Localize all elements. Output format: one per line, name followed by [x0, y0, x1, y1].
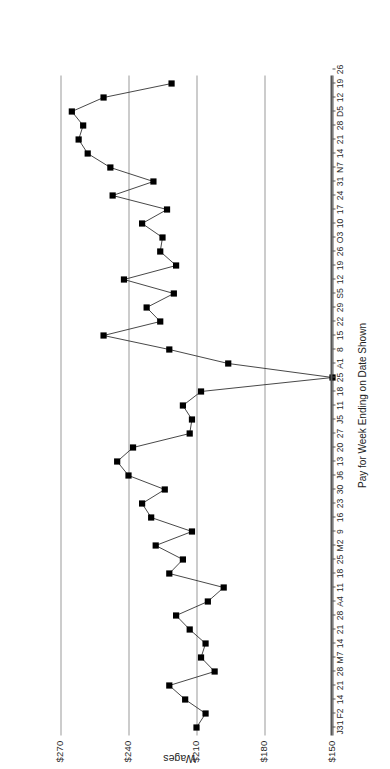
x-tick-label: 21: [334, 134, 344, 144]
data-point-marker: [120, 276, 126, 282]
x-tick-label: 17: [334, 204, 344, 214]
data-point-marker: [173, 612, 179, 618]
data-point-marker: [220, 584, 226, 590]
x-tick-label: 25: [334, 372, 344, 382]
x-tick-label: M2: [334, 539, 344, 551]
data-point-marker: [75, 136, 81, 142]
x-tick-label: 11: [334, 583, 344, 592]
data-point-marker: [148, 514, 154, 520]
data-point-marker: [193, 724, 199, 730]
data-point-marker: [159, 234, 165, 240]
x-tick-label: 8: [334, 347, 344, 352]
data-point-marker: [161, 486, 167, 492]
rotated-figure-wrapper: $150$180$210$240$270 Wages J31F2142128M7…: [0, 0, 390, 769]
x-tick-label: 19: [334, 260, 344, 270]
x-axis-title: Pay for Week Ending on Date Shown: [356, 75, 367, 735]
x-tick-label: 14: [334, 694, 344, 704]
series-line-with-square-markers: [26, 75, 332, 735]
data-point-marker: [204, 598, 210, 604]
data-point-marker: [157, 248, 163, 254]
data-point-marker: [68, 108, 74, 114]
x-tick-label: 9: [334, 529, 344, 534]
data-point-marker: [166, 570, 172, 576]
x-tick-label: 22: [334, 316, 344, 326]
data-point-marker: [100, 94, 106, 100]
x-tick-label: A1: [334, 358, 344, 369]
x-tick-label: 23: [334, 498, 344, 508]
x-tick-label: 31: [334, 176, 344, 186]
data-point-marker: [163, 206, 169, 212]
x-tick-label: 29: [334, 302, 344, 312]
x-tick-label: 11: [334, 401, 344, 410]
data-point-marker: [139, 500, 145, 506]
data-point-marker: [225, 360, 231, 366]
x-tick-label: J5: [334, 414, 344, 423]
data-point-marker: [157, 318, 163, 324]
x-tick-label: 28: [334, 120, 344, 130]
x-tick-label: 21: [334, 680, 344, 690]
x-tick-label: 24: [334, 190, 344, 200]
y-axis-title-wrap: Wages: [26, 741, 332, 769]
x-tick-label: N7: [334, 162, 344, 173]
x-tick-label: 14: [334, 148, 344, 158]
x-tick-label: 15: [334, 330, 344, 340]
x-tick-label: O3: [334, 231, 344, 242]
data-point-marker: [186, 430, 192, 436]
data-point-marker: [166, 682, 172, 688]
data-point-marker: [109, 192, 115, 198]
data-point-marker: [84, 150, 90, 156]
x-tick-label: 14: [334, 638, 344, 648]
x-tick-label: 12: [334, 92, 344, 102]
x-tick-label: 20: [334, 442, 344, 452]
x-tick-label: 28: [334, 610, 344, 620]
figure: $150$180$210$240$270 Wages J31F2142128M7…: [0, 0, 390, 769]
data-point-marker: [173, 262, 179, 268]
x-tick-label: 27: [334, 428, 344, 438]
data-point-marker: [197, 388, 203, 394]
plot-area: [26, 75, 332, 735]
data-point-marker: [182, 696, 188, 702]
data-point-marker: [188, 528, 194, 534]
data-point-marker: [107, 164, 113, 170]
x-tick-label: 10: [334, 218, 344, 228]
data-point-marker: [150, 178, 156, 184]
x-tick-label: M7: [334, 651, 344, 663]
data-point-marker: [80, 122, 86, 128]
x-tick-label: J6: [334, 470, 344, 479]
y-axis-title: Wages: [163, 752, 195, 764]
x-tick-label: S5: [334, 288, 344, 299]
data-point-marker: [143, 304, 149, 310]
data-point-marker: [197, 654, 203, 660]
x-tick-label: 16: [334, 512, 344, 522]
data-point-marker: [186, 626, 192, 632]
data-point-marker: [114, 458, 120, 464]
data-point-marker: [125, 472, 131, 478]
x-tick-label: 28: [334, 666, 344, 676]
data-point-marker: [139, 220, 145, 226]
data-point-marker: [170, 290, 176, 296]
data-point-marker: [179, 402, 185, 408]
x-tick-label: 18: [334, 386, 344, 396]
x-tick-label: 18: [334, 568, 344, 578]
data-point-marker: [202, 640, 208, 646]
data-point-marker: [202, 710, 208, 716]
x-tick-label: 21: [334, 624, 344, 634]
x-tick-label: F2: [334, 708, 344, 718]
data-point-marker: [129, 444, 135, 450]
data-point-marker: [168, 80, 174, 86]
x-tick-label: 26: [334, 64, 344, 74]
x-tick-label: D5: [334, 106, 344, 117]
x-tick-label: 13: [334, 456, 344, 466]
chart-screenshot: $150$180$210$240$270 Wages J31F2142128M7…: [0, 0, 390, 769]
x-tick-label: 19: [334, 78, 344, 88]
data-point-marker: [152, 542, 158, 548]
x-tick-label: J31: [334, 720, 344, 734]
x-tick-label: 25: [334, 554, 344, 564]
x-tick-label: A4: [334, 596, 344, 607]
data-point-marker: [188, 416, 194, 422]
series-line: [71, 83, 332, 727]
x-tick-label: 30: [334, 484, 344, 494]
data-point-marker: [166, 346, 172, 352]
data-point-marker: [179, 556, 185, 562]
x-tick-label: 26: [334, 246, 344, 256]
